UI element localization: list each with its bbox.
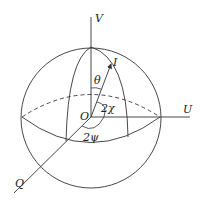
meridian-left bbox=[66, 47, 91, 141]
q-axis bbox=[14, 117, 91, 193]
theta-arc bbox=[91, 88, 101, 89]
q-axis-label: Q bbox=[15, 177, 24, 190]
two-chi-label: 2χ bbox=[100, 102, 116, 115]
v-axis-label: V bbox=[95, 12, 104, 25]
diagram-svg: V U Q O I θ 2χ 2ψ bbox=[0, 0, 209, 204]
u-axis-label: U bbox=[183, 103, 193, 116]
vector-label: I bbox=[112, 56, 118, 69]
poincare-sphere-diagram: V U Q O I θ 2χ 2ψ bbox=[0, 0, 209, 204]
meridian-right bbox=[91, 47, 128, 137]
origin-label: O bbox=[80, 110, 89, 123]
two-psi-label: 2ψ bbox=[82, 131, 99, 144]
theta-label: θ bbox=[94, 74, 101, 87]
